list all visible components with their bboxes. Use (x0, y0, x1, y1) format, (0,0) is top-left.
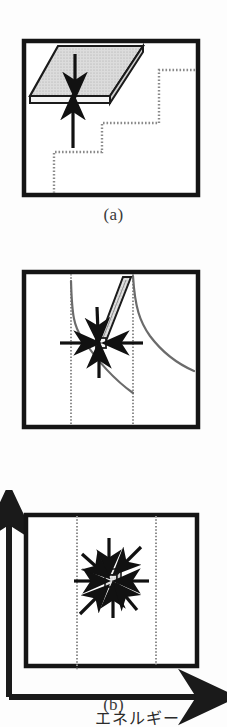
panel-b-graphic (0, 250, 227, 450)
panel-b: (b) (0, 250, 227, 490)
panel-a: (a) (0, 0, 227, 250)
panel-c-frame (26, 515, 197, 666)
panel-b-focus-square (96, 338, 106, 348)
panel-b-frame (24, 272, 198, 427)
panel-c (0, 490, 227, 727)
panel-a-graphic (0, 0, 227, 200)
figure-root: (a) (0, 0, 227, 727)
panel-c-cube (105, 569, 121, 587)
panel-a-caption: (a) (0, 205, 227, 225)
x-axis-label: エネルギー (95, 705, 180, 727)
panel-c-graphic (0, 490, 227, 727)
